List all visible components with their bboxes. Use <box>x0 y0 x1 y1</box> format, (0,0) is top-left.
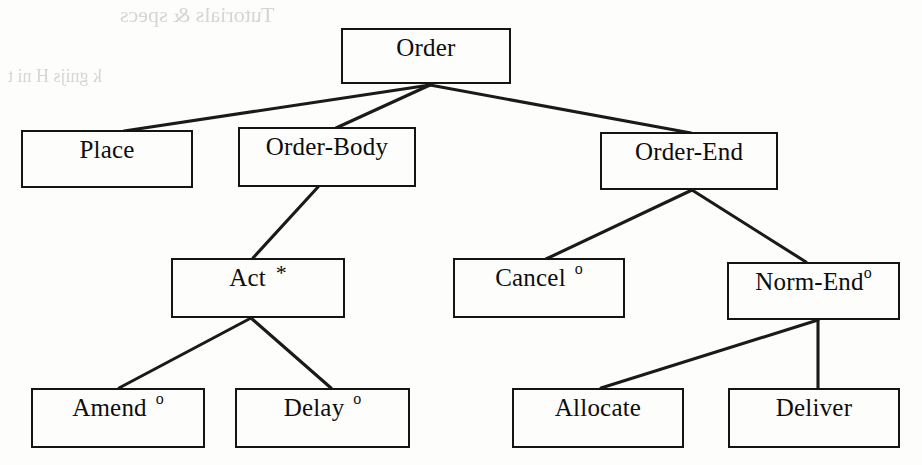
node-amend[interactable]: Amendo <box>31 388 205 448</box>
optional-marker-icon: o <box>575 261 583 277</box>
node-norm-end[interactable]: Norm-Endo <box>727 262 900 320</box>
edge-order-to-place <box>124 85 430 131</box>
edge-order-end-to-cancel <box>546 190 692 259</box>
node-deliver[interactable]: Deliver <box>728 388 900 448</box>
edge-act-to-delay <box>251 318 331 388</box>
node-order-body[interactable]: Order-Body <box>238 127 416 187</box>
node-act[interactable]: Act* <box>171 258 345 318</box>
node-label: Cancel <box>495 263 566 293</box>
optional-marker-icon: o <box>353 391 361 407</box>
node-cancel[interactable]: Cancelo <box>453 258 625 318</box>
node-label: Act <box>229 263 266 293</box>
edge-order-body-to-act <box>253 187 318 258</box>
node-label: Deliver <box>776 393 852 423</box>
node-delay[interactable]: Delayo <box>235 388 410 448</box>
repetition-marker-icon: * <box>276 265 287 281</box>
optional-marker-icon: o <box>864 265 872 281</box>
node-label: Place <box>79 135 134 165</box>
node-label: Norm-End <box>755 267 864 297</box>
node-label: Order-End <box>635 137 743 167</box>
node-order-end[interactable]: Order-End <box>600 132 778 190</box>
node-label: Order <box>396 33 455 63</box>
node-place[interactable]: Place <box>21 130 193 188</box>
edge-act-to-amend <box>119 318 251 388</box>
edge-order-end-to-norm-end <box>692 190 806 262</box>
node-label: Allocate <box>555 393 641 423</box>
node-allocate[interactable]: Allocate <box>512 388 684 448</box>
node-order[interactable]: Order <box>341 28 511 84</box>
edge-order-to-order-end <box>430 85 691 133</box>
node-label: Delay <box>284 393 345 423</box>
node-label: Order-Body <box>266 132 388 162</box>
node-label: Amend <box>72 393 147 423</box>
diagram-canvas: Tutorials & specsk gnijs H ni t OrderPla… <box>0 0 922 465</box>
edge-norm-end-to-allocate <box>601 320 818 388</box>
optional-marker-icon: o <box>156 391 164 407</box>
